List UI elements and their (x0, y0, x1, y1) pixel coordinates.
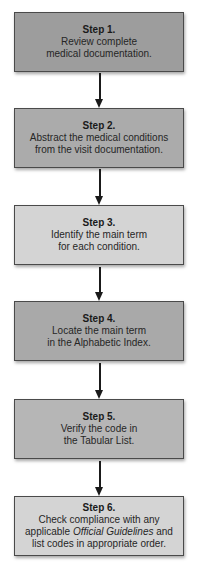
step-1-text-line-1: Review complete (61, 36, 137, 48)
arrow-line (99, 267, 101, 293)
step-3-box: Step 3. Identify the main term for each … (14, 205, 184, 265)
step-1-text-line-2: medical documentation. (46, 48, 152, 60)
step-6-text-line-1: Check compliance with any (38, 514, 159, 526)
arrow-1-to-2 (99, 73, 101, 108)
arrow-down-icon (95, 292, 103, 301)
arrow-3-to-4 (99, 267, 101, 301)
step-1-box: Step 1. Review complete medical document… (14, 12, 184, 72)
arrow-down-icon (95, 487, 103, 496)
step-2-box: Step 2. Abstract the medical conditions … (14, 108, 184, 168)
arrow-5-to-6 (99, 461, 101, 496)
arrow-line (99, 73, 101, 100)
arrow-down-icon (95, 390, 103, 399)
step-6-box: Step 6. Check compliance with any applic… (14, 496, 184, 556)
official-guidelines-text: Official Guidelines (73, 526, 154, 537)
arrow-2-to-3 (99, 169, 101, 205)
arrow-line (99, 363, 101, 391)
step-6-line-2-prefix: applicable (25, 526, 73, 537)
arrow-4-to-5 (99, 363, 101, 399)
step-4-box: Step 4. Locate the main term in the Alph… (14, 301, 184, 361)
step-5-text-line-2: the Tabular List. (64, 435, 134, 447)
arrow-line (99, 461, 101, 488)
step-6-line-2-suffix: and (153, 526, 172, 537)
step-4-title: Step 4. (83, 313, 116, 325)
step-4-text-line-2: in the Alphabetic Index. (47, 337, 150, 349)
step-6-text-line-3: list codes in appropriate order. (32, 538, 166, 550)
arrow-down-icon (95, 196, 103, 205)
step-5-text-line-1: Verify the code in (61, 423, 138, 435)
step-5-box: Step 5. Verify the code in the Tabular L… (14, 399, 184, 459)
step-3-text-line-1: Identify the main term (51, 229, 147, 241)
step-4-text-line-1: Locate the main term (52, 325, 146, 337)
step-6-title: Step 6. (83, 502, 116, 514)
step-5-title: Step 5. (83, 411, 116, 423)
step-3-text-line-2: for each condition. (58, 241, 140, 253)
arrow-down-icon (95, 99, 103, 108)
arrow-line (99, 169, 101, 197)
step-2-text-line-1: Abstract the medical conditions (30, 132, 168, 144)
step-2-title: Step 2. (83, 120, 116, 132)
step-2-text-line-2: from the visit documentation. (35, 144, 163, 156)
step-6-text-line-2: applicable Official Guidelines and (25, 526, 173, 538)
step-1-title: Step 1. (83, 24, 116, 36)
step-3-title: Step 3. (83, 217, 116, 229)
